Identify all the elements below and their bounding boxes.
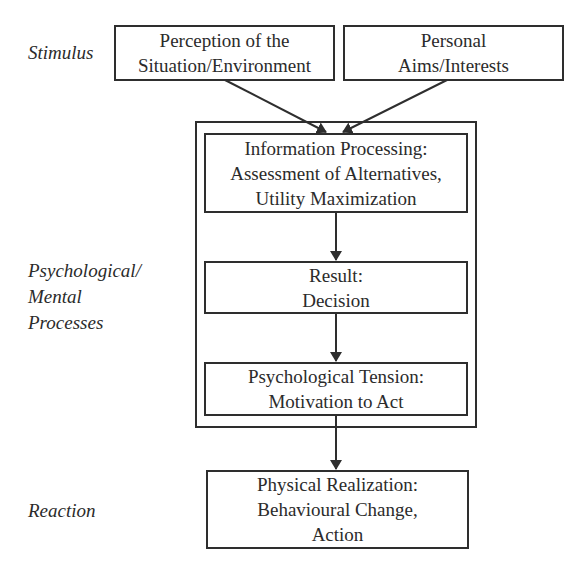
box-aims: Personal Aims/Interests bbox=[343, 25, 564, 81]
physical-line-2: Behavioural Change, bbox=[257, 497, 417, 522]
physical-line-1: Physical Realization: bbox=[257, 472, 418, 497]
label-stimulus: Stimulus bbox=[28, 40, 93, 66]
box-psychological-tension: Psychological Tension: Motivation to Act bbox=[204, 362, 468, 416]
reaction-text: Reaction bbox=[28, 500, 96, 521]
tension-line-1: Psychological Tension: bbox=[248, 364, 424, 389]
aims-line-2: Aims/Interests bbox=[398, 53, 509, 78]
perception-line-1: Perception of the bbox=[160, 28, 290, 53]
info-line-3: Utility Maximization bbox=[256, 186, 417, 211]
info-line-2: Assessment of Alternatives, bbox=[230, 161, 442, 186]
psych-line-2: Mental bbox=[28, 284, 141, 310]
result-line-1: Result: bbox=[309, 263, 363, 288]
label-psychological-mental-processes: Psychological/ Mental Processes bbox=[28, 258, 141, 336]
psych-line-3: Processes bbox=[28, 310, 141, 336]
label-reaction: Reaction bbox=[28, 498, 96, 524]
box-result-decision: Result: Decision bbox=[204, 261, 468, 314]
result-line-2: Decision bbox=[302, 288, 370, 313]
perception-line-2: Situation/Environment bbox=[138, 53, 311, 78]
stimulus-text: Stimulus bbox=[28, 42, 93, 63]
aims-line-1: Personal bbox=[421, 28, 486, 53]
info-line-1: Information Processing: bbox=[244, 136, 427, 161]
psych-line-1: Psychological/ bbox=[28, 258, 141, 284]
box-perception: Perception of the Situation/Environment bbox=[114, 25, 335, 81]
box-information-processing: Information Processing: Assessment of Al… bbox=[204, 133, 468, 213]
tension-line-2: Motivation to Act bbox=[268, 389, 403, 414]
box-physical-realization: Physical Realization: Behavioural Change… bbox=[206, 470, 469, 549]
physical-line-3: Action bbox=[312, 522, 364, 547]
